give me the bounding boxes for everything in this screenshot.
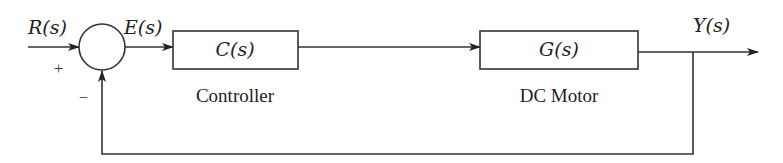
controller-tf: C(s) [215, 38, 254, 60]
error-signal: E(s) [123, 16, 173, 47]
minus-sign: − [79, 89, 88, 106]
input-signal: R(s) [27, 16, 79, 47]
output-signal: Y(s) [638, 14, 758, 52]
controller-block: C(s) Controller [173, 31, 298, 106]
output-label: Y(s) [693, 14, 730, 36]
plant-block: G(s) DC Motor [480, 31, 638, 106]
controller-caption: Controller [196, 85, 275, 106]
summing-circle [79, 24, 125, 70]
plus-sign: + [54, 60, 63, 77]
input-label: R(s) [27, 16, 67, 38]
error-label: E(s) [123, 16, 162, 38]
plant-caption: DC Motor [520, 85, 599, 106]
plant-tf: G(s) [539, 38, 579, 60]
block-diagram: R(s) + − E(s) C(s) Controller G(s) DC Mo… [0, 0, 783, 163]
